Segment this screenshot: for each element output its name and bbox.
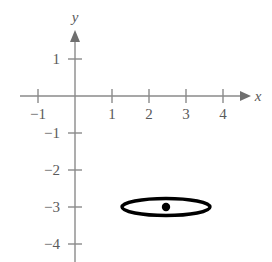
y-tick-labels: 1 −1 −2 −3 −4 (44, 51, 60, 252)
y-tick-label-neg1: −1 (44, 125, 60, 141)
y-tick-label-1: 1 (53, 51, 61, 67)
ellipse-center-point (162, 203, 170, 211)
x-tick-label-1: 1 (108, 106, 116, 122)
y-tick-label-neg4: −4 (44, 236, 60, 252)
coordinate-plane-figure: −1 1 2 3 4 1 −1 −2 −3 −4 x y (0, 0, 272, 262)
y-tick-label-neg2: −2 (44, 162, 60, 178)
plot-canvas: −1 1 2 3 4 1 −1 −2 −3 −4 x y (0, 0, 272, 262)
y-tick-label-neg3: −3 (44, 199, 60, 215)
x-tick-label-3: 3 (182, 106, 190, 122)
y-axis-label: y (70, 9, 79, 25)
y-axis-arrow-icon (70, 30, 80, 42)
x-tick-label-4: 4 (219, 106, 227, 122)
x-tick-labels: −1 1 2 3 4 (30, 106, 227, 122)
x-axis-arrow-icon (240, 91, 251, 101)
x-axis-label: x (254, 88, 262, 104)
x-tick-label-neg1: −1 (30, 106, 46, 122)
x-tick-label-2: 2 (145, 106, 153, 122)
